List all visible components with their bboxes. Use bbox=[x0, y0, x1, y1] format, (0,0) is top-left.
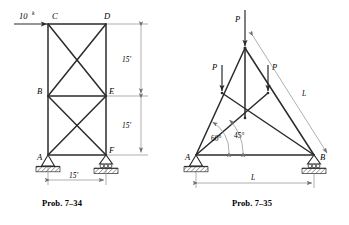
dim-label-lower-15ft: 15' bbox=[122, 121, 132, 130]
load-P-left-label: P bbox=[211, 62, 217, 72]
member-A-right bbox=[196, 93, 268, 155]
joint-label-F: F bbox=[108, 145, 115, 155]
dim-label-span-L: L bbox=[250, 173, 255, 182]
load-10k-label: 10 bbox=[19, 11, 28, 21]
dim-label-upper-15ft: 15' bbox=[122, 55, 132, 64]
caption-prob-7-35: Prob. 7–35 bbox=[232, 198, 272, 208]
members-verticals bbox=[48, 24, 106, 155]
load-P-left: P bbox=[211, 62, 222, 91]
members-diagonals bbox=[48, 24, 106, 155]
member-B-left bbox=[222, 93, 314, 155]
figure-prob-7-35: P P P 60° 45° bbox=[184, 10, 327, 188]
joint-dot-left bbox=[221, 92, 224, 95]
load-10k-at-C: 10 k bbox=[14, 10, 47, 25]
dim-line-diagonal-L bbox=[253, 36, 327, 153]
figure-root: 10 k A B C D bbox=[0, 0, 349, 225]
joint-label-A-7-35: A bbox=[184, 152, 191, 162]
dimension-diagonal-L bbox=[253, 36, 327, 153]
load-10k-superscript: k bbox=[32, 10, 35, 16]
figure-prob-7-34: 10 k A B C D bbox=[14, 10, 148, 186]
load-P-right-label: P bbox=[271, 62, 277, 72]
joint-dot-center bbox=[244, 117, 247, 120]
truss-figures-svg: 10 k A B C D bbox=[0, 0, 349, 225]
angle-label-45: 45° bbox=[234, 131, 245, 140]
joint-label-C: C bbox=[52, 11, 58, 21]
joint-dot-apex bbox=[244, 47, 247, 50]
members-chords bbox=[48, 24, 106, 155]
joint-label-E: E bbox=[108, 86, 115, 96]
load-P-apex-label: P bbox=[234, 14, 240, 24]
load-P-apex: P bbox=[234, 10, 245, 46]
dim-label-span-15ft: 15' bbox=[69, 171, 79, 180]
caption-prob-7-34: Prob. 7–34 bbox=[42, 198, 82, 208]
joint-label-A: A bbox=[36, 152, 43, 162]
joint-label-D: D bbox=[103, 11, 111, 21]
joint-label-B-7-35: B bbox=[320, 152, 325, 162]
member-B-apex bbox=[245, 48, 314, 155]
joint-dot-right bbox=[267, 92, 270, 95]
joint-label-B: B bbox=[37, 86, 42, 96]
angle-label-60: 60° bbox=[211, 134, 222, 143]
dim-label-diagonal-L: L bbox=[301, 89, 306, 98]
